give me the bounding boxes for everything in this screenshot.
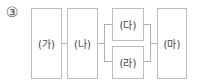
circled-number-label: ③ [4, 4, 20, 20]
box-ma: (마) [157, 8, 187, 79]
connector-split-ra [104, 61, 112, 62]
split-bus-left [104, 24, 105, 62]
connector-split-da [104, 24, 112, 25]
connector-merge-ma [150, 43, 157, 44]
box-ra: (라) [112, 46, 144, 79]
box-na: (나) [67, 8, 98, 79]
box-da-label: (다) [120, 17, 137, 32]
box-ma-label: (마) [164, 36, 181, 51]
box-ga: (가) [31, 8, 62, 79]
box-na-label: (나) [74, 36, 91, 51]
box-ra-label: (라) [120, 55, 137, 70]
box-ga-label: (가) [38, 36, 55, 51]
box-da: (다) [112, 8, 144, 41]
